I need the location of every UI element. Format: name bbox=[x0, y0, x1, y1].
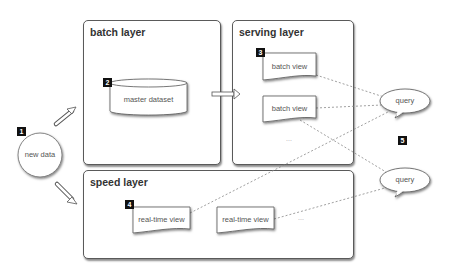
step-badge-2: 2 bbox=[103, 78, 112, 87]
master-dataset-label: master dataset bbox=[110, 95, 187, 104]
batch-view-2-label: batch view bbox=[263, 104, 316, 113]
query-1-label: query bbox=[380, 96, 430, 105]
diagram-shapes bbox=[0, 0, 449, 270]
arrow-new-data-to-speed-icon bbox=[57, 184, 77, 204]
batch-view-1-label: batch view bbox=[263, 62, 316, 71]
real-time-view-2-label: real-time view bbox=[217, 215, 274, 224]
serving-ellipsis: ... bbox=[286, 135, 292, 142]
step-badge-1: 1 bbox=[17, 127, 26, 136]
arrow-new-data-to-batch-icon bbox=[56, 107, 76, 124]
step-badge-4: 4 bbox=[125, 200, 134, 209]
arrow-batch-to-serving-icon bbox=[212, 89, 240, 99]
speed-ellipsis: ... bbox=[298, 214, 304, 221]
new-data-label: new data bbox=[18, 150, 62, 159]
step-badge-3: 3 bbox=[256, 48, 265, 57]
real-time-view-1-label: real-time view bbox=[133, 215, 190, 224]
step-badge-5: 5 bbox=[398, 136, 407, 145]
query-2-label: query bbox=[380, 175, 430, 184]
